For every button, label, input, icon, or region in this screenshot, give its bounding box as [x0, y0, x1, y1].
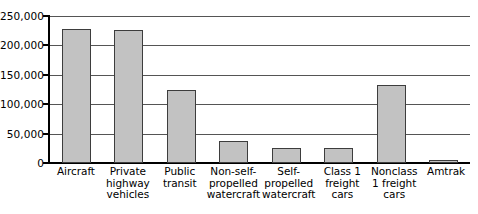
x-axis-category-label-line: watercraft [262, 189, 315, 201]
x-axis-category-labels: AircraftPrivatehighwayvehiclesPublictran… [50, 166, 472, 201]
bar-slot [50, 16, 103, 163]
x-axis-category-label: Self-propelledwatercraft [261, 166, 316, 201]
bar-slot [155, 16, 208, 163]
y-axis-tick-label: 50,000 [7, 128, 44, 140]
x-axis-category-label-line: cars [369, 189, 419, 201]
bar[interactable] [167, 90, 196, 164]
x-axis-category-label: Nonclass1 freightcars [368, 166, 420, 201]
bar[interactable] [324, 148, 353, 163]
x-axis-category-label: Aircraft [50, 166, 102, 201]
bar[interactable] [429, 160, 458, 163]
bar[interactable] [272, 148, 301, 163]
x-axis-category-label: Publictransit [154, 166, 206, 201]
bar-slot [418, 16, 471, 163]
bar[interactable] [62, 29, 91, 163]
bar[interactable] [114, 30, 143, 163]
bar[interactable] [219, 141, 248, 163]
y-axis-tick-label: 150,000 [0, 69, 44, 81]
bar-series [50, 16, 470, 163]
x-axis-category-label-line: Aircraft [51, 166, 101, 178]
x-axis-category-label-line: cars [317, 189, 367, 201]
bar-slot [260, 16, 313, 163]
x-axis-category-label: Amtrak [420, 166, 472, 201]
x-axis-category-label-line: Private [103, 166, 153, 178]
x-axis-category-label: Privatehighwayvehicles [102, 166, 154, 201]
bar-slot [313, 16, 366, 163]
x-axis-category-label-line: Amtrak [421, 166, 471, 178]
x-axis-category-label-line: vehicles [103, 189, 153, 201]
x-axis-category-label-line: Public [155, 166, 205, 178]
y-axis-tick-label: 100,000 [0, 98, 44, 110]
y-axis-tick-label: 250,000 [0, 10, 44, 22]
y-axis-tick-labels: 050,000100,000150,000200,000250,000 [0, 0, 44, 214]
y-axis-tick-label: 200,000 [0, 39, 44, 51]
x-axis-category-label-line: watercraft [207, 189, 260, 201]
bar-slot [103, 16, 156, 163]
x-axis-category-label-line: Nonclass [369, 166, 419, 178]
x-axis-category-label: Class 1freightcars [316, 166, 368, 201]
x-axis-category-label-line: Class 1 [317, 166, 367, 178]
bar-slot [365, 16, 418, 163]
bar[interactable] [377, 85, 406, 163]
x-axis-category-label-line: Self- [262, 166, 315, 178]
x-axis-category-label: Non-self-propelledwatercraft [206, 166, 261, 201]
plot-area [48, 16, 470, 163]
bar-slot [208, 16, 261, 163]
x-axis-category-label-line: Non-self- [207, 166, 260, 178]
bar-chart: 050,000100,000150,000200,000250,000 Airc… [0, 0, 478, 214]
x-axis-category-label-line: transit [155, 178, 205, 190]
